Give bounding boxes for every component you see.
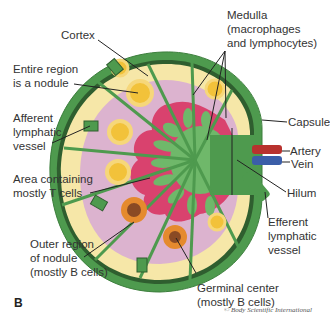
label-tcells-2: mostly T cells xyxy=(13,187,82,200)
label-efferent-1: Efferent xyxy=(268,216,308,229)
label-vein: Vein xyxy=(291,158,313,171)
label-capsule: Capsule xyxy=(288,116,330,129)
label-outer-2: of nodule xyxy=(30,252,77,265)
label-cortex: Cortex xyxy=(61,29,95,42)
label-outer-3: (mostly B cells) xyxy=(30,266,108,279)
label-afferent-2: lymphatic xyxy=(13,126,62,139)
label-nodule-1: Entire region xyxy=(13,63,78,76)
label-efferent-3: vessel xyxy=(268,244,301,257)
vein xyxy=(252,156,282,165)
label-outer-1: Outer region xyxy=(30,238,94,251)
label-medulla-3: and lymphocytes) xyxy=(227,37,317,50)
label-hilum: Hilum xyxy=(287,187,316,200)
label-afferent-3: vessel xyxy=(13,140,46,153)
artery xyxy=(252,145,282,154)
germinal-center xyxy=(166,228,184,246)
label-nodule-2: is a nodule xyxy=(13,77,69,90)
label-medulla-1: Medulla xyxy=(227,9,267,22)
label-afferent-1: Afferent xyxy=(13,112,53,125)
label-medulla-2: (macrophages xyxy=(227,23,301,36)
label-tcells-1: Area containing xyxy=(13,173,93,186)
copyright: © Body Scientific International xyxy=(224,306,312,314)
label-germinal-1: Germinal center xyxy=(197,282,279,295)
panel-letter: B xyxy=(14,296,23,310)
label-efferent-2: lymphatic xyxy=(268,230,317,243)
label-artery: Artery xyxy=(290,145,321,158)
